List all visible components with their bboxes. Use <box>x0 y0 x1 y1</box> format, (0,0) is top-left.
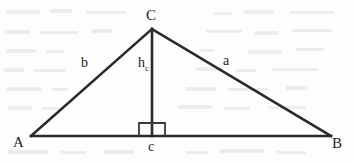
side-a-line <box>152 29 331 136</box>
altitude-label-base: h <box>138 55 145 70</box>
altitude-label-subscript: c <box>145 63 149 73</box>
side-b-line <box>31 29 152 136</box>
triangle-drawing <box>0 0 354 164</box>
side-label-c: c <box>148 140 154 154</box>
side-label-a: a <box>223 54 229 68</box>
geometry-figure: A B C b a c hc <box>0 0 354 164</box>
side-label-b: b <box>81 56 88 70</box>
altitude-label-hc: hc <box>138 56 149 73</box>
vertex-label-b: B <box>332 136 342 151</box>
vertex-label-c: C <box>146 8 156 23</box>
vertex-label-a: A <box>13 135 24 150</box>
